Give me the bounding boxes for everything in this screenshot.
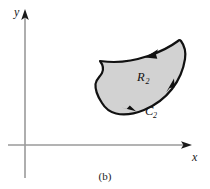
boundary-arrow-top-icon — [145, 49, 158, 59]
y-axis-label: y — [13, 5, 20, 19]
figure-container: y x R 2 C 2 (b) — [0, 0, 210, 189]
region-label-letter: R — [136, 70, 145, 84]
curve-label-subscript: 2 — [153, 111, 157, 120]
figure-canvas: y x R 2 C 2 (b) — [0, 0, 210, 189]
x-axis-label: x — [191, 150, 198, 164]
figure-caption: (b) — [99, 170, 112, 183]
region-label-subscript: 2 — [146, 77, 150, 86]
